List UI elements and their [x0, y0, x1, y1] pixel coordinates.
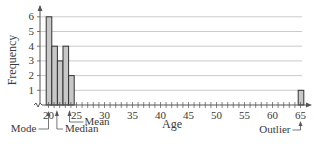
y-tick-label: 4 — [29, 40, 35, 52]
x-axis — [34, 103, 306, 107]
gridlines — [40, 17, 302, 91]
y-axis-title: Frequency — [5, 35, 19, 86]
y-tick-label: 3 — [29, 54, 35, 66]
axes — [34, 5, 312, 108]
annotation-outlier: Outlier — [259, 121, 302, 135]
x-tick-label: 45 — [183, 109, 195, 121]
y-tick-label: 5 — [29, 25, 35, 37]
y-tick-label: 6 — [29, 10, 35, 22]
bar — [63, 46, 69, 105]
bar — [69, 76, 75, 105]
bar — [52, 46, 58, 105]
bar — [57, 61, 63, 105]
svg-text:Mean: Mean — [85, 115, 111, 127]
x-tick-label: 65 — [295, 109, 307, 121]
bar — [46, 17, 52, 105]
histogram-chart: 123456 20253035404550556065 Frequency Ag… — [0, 0, 314, 146]
x-axis-arrow-icon — [306, 103, 312, 108]
x-tick-label: 60 — [267, 109, 279, 121]
x-tick-label: 55 — [239, 109, 251, 121]
x-tick-label: 50 — [211, 109, 223, 121]
x-tick-label: 25 — [71, 109, 83, 121]
y-tick-labels: 123456 — [29, 10, 35, 96]
svg-text:Mode: Mode — [11, 122, 37, 134]
y-axis-arrow-icon — [38, 5, 43, 11]
svg-text:Outlier: Outlier — [259, 123, 290, 135]
y-tick-label: 2 — [29, 69, 35, 81]
x-axis-title: Age — [162, 117, 182, 131]
y-tick-label: 1 — [29, 84, 35, 96]
bar — [298, 90, 304, 105]
x-tick-label: 35 — [127, 109, 139, 121]
